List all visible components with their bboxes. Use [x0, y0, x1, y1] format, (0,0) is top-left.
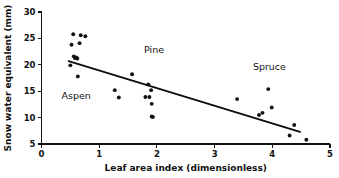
data-point — [143, 95, 147, 99]
x-tick-label: 2 — [154, 149, 160, 159]
data-point — [113, 88, 117, 92]
data-point — [304, 138, 308, 142]
x-tick-labels: 012345 — [39, 149, 334, 159]
regression-line — [69, 61, 300, 132]
data-point — [78, 41, 82, 45]
data-point — [288, 134, 292, 138]
data-point — [257, 113, 261, 117]
data-point — [270, 106, 274, 110]
group-label-spruce: Spruce — [253, 61, 286, 72]
group-label-pine: Pine — [144, 44, 164, 55]
x-tick-label: 0 — [39, 149, 45, 159]
data-point — [71, 32, 75, 36]
trend-line — [69, 61, 300, 132]
data-point — [76, 74, 80, 78]
data-point — [83, 34, 87, 38]
data-point — [235, 97, 239, 101]
data-points — [68, 32, 308, 142]
x-axis-title: Leaf area index (dimensionless) — [105, 163, 267, 173]
x-tick-label: 5 — [327, 149, 333, 159]
axes — [42, 12, 331, 144]
y-tick-label: 10 — [24, 113, 36, 123]
y-tick-label: 15 — [24, 86, 36, 96]
data-point — [79, 33, 83, 37]
y-axis-title: Snow water equivalent (mm) — [3, 5, 13, 152]
data-point — [150, 102, 154, 106]
x-tick-label: 1 — [96, 149, 102, 159]
data-point — [147, 95, 151, 99]
data-point — [266, 87, 270, 91]
x-tick-label: 4 — [269, 149, 275, 159]
data-point — [117, 96, 121, 100]
y-tick-label: 25 — [24, 33, 36, 43]
y-tick-label: 30 — [24, 7, 36, 17]
data-point — [261, 111, 265, 115]
data-point — [292, 123, 296, 127]
y-tick-label: 20 — [24, 60, 36, 70]
data-point — [130, 72, 134, 76]
data-point — [68, 63, 72, 67]
chart-canvas: 012345 51015202530 AspenPineSpruce Leaf … — [0, 0, 339, 178]
scatter-chart: 012345 51015202530 AspenPineSpruce Leaf … — [0, 0, 339, 178]
group-annotations: AspenPineSpruce — [61, 44, 286, 100]
data-point — [151, 115, 155, 119]
data-point — [70, 43, 74, 47]
group-label-aspen: Aspen — [61, 90, 90, 101]
y-tick-labels: 51015202530 — [24, 7, 36, 149]
x-tick-label: 3 — [212, 149, 218, 159]
y-tick-label: 5 — [30, 139, 36, 149]
data-point — [75, 57, 79, 61]
data-point — [149, 88, 153, 92]
